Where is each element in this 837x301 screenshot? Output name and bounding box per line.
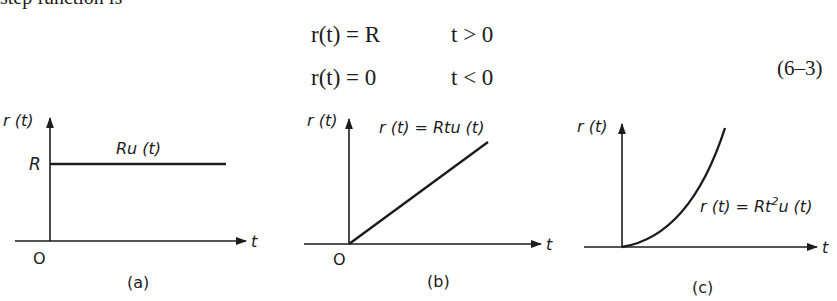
x-axis-label: t (251, 232, 258, 251)
figure-c: r (t) t r (t) = Rt2u (t) (c) (577, 117, 829, 297)
figure-a: r (t) t O R Ru (t) (a) (3, 111, 258, 292)
x-axis-label: t (546, 235, 553, 254)
caption: (b) (427, 272, 450, 291)
curve-label: r (t) = Rtu (t) (379, 118, 484, 137)
x-axis-label: t (822, 238, 829, 257)
y-axis-label: r (t) (577, 117, 607, 136)
ramp-curve (349, 142, 488, 244)
origin-label: O (33, 249, 46, 268)
curve-label: Ru (t) (116, 139, 161, 158)
figures: r (t) t O R Ru (t) (a) r (t) t O r (t) =… (0, 0, 837, 301)
caption: (c) (692, 278, 713, 297)
parabolic-curve (622, 128, 725, 247)
level-label: R (29, 154, 41, 174)
caption: (a) (127, 273, 149, 292)
origin-label: O (333, 250, 346, 269)
y-axis-label: r (t) (307, 111, 337, 130)
y-axis-label: r (t) (3, 111, 33, 130)
curve-label: r (t) = Rt2u (t) (700, 195, 812, 216)
figure-b: r (t) t O r (t) = Rtu (t) (b) (304, 111, 553, 291)
